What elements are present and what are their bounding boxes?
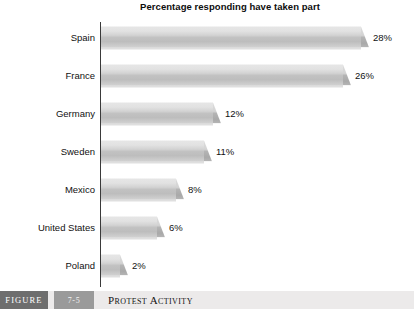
bar-mexico[interactable] bbox=[101, 179, 176, 200]
bar-body bbox=[101, 255, 120, 276]
figure-container: Percentage responding have taken part Sp… bbox=[0, 0, 414, 320]
category-label-united-states: United States bbox=[38, 222, 95, 233]
bar-sweden[interactable] bbox=[101, 141, 204, 162]
bar-end-cap bbox=[204, 141, 212, 162]
bar-shadow bbox=[101, 48, 361, 50]
bar-body bbox=[101, 217, 157, 238]
value-label-united-states: 6% bbox=[169, 222, 183, 233]
bar-row: Mexico 8% bbox=[0, 170, 414, 208]
bar-shadow bbox=[101, 162, 204, 164]
figure-caption-band: FIGURE 7-5 Protest Activity bbox=[0, 291, 414, 309]
bar-row: Germany 12% bbox=[0, 94, 414, 132]
bar-row: Sweden 11% bbox=[0, 132, 414, 170]
bar-row: United States 6% bbox=[0, 208, 414, 246]
value-label-poland: 2% bbox=[132, 260, 146, 271]
bar-shadow bbox=[101, 238, 157, 240]
bar-row: Spain 28% bbox=[0, 18, 414, 56]
category-label-france: France bbox=[65, 70, 95, 81]
value-label-mexico: 8% bbox=[188, 184, 202, 195]
bar-body bbox=[101, 27, 361, 48]
bar-shadow bbox=[101, 276, 120, 278]
chart-title: Percentage responding have taken part bbox=[100, 1, 360, 12]
bar-end-cap bbox=[213, 103, 221, 124]
figure-caption-title: Protest Activity bbox=[108, 291, 193, 309]
bar-france[interactable] bbox=[101, 65, 343, 86]
bar-end-cap bbox=[361, 27, 369, 48]
category-label-spain: Spain bbox=[71, 32, 95, 43]
value-label-france: 26% bbox=[355, 70, 374, 81]
figure-number-badge: 7-5 bbox=[54, 291, 94, 309]
category-label-germany: Germany bbox=[56, 108, 95, 119]
category-label-sweden: Sweden bbox=[61, 146, 95, 157]
bar-body bbox=[101, 103, 213, 124]
bar-end-cap bbox=[176, 179, 184, 200]
bar-united-states[interactable] bbox=[101, 217, 157, 238]
bar-end-cap bbox=[120, 255, 128, 276]
value-label-spain: 28% bbox=[373, 32, 392, 43]
figure-label-badge: FIGURE bbox=[0, 291, 48, 309]
bar-shadow bbox=[101, 124, 213, 126]
bar-poland[interactable] bbox=[101, 255, 120, 276]
value-label-germany: 12% bbox=[225, 108, 244, 119]
category-label-poland: Poland bbox=[65, 260, 95, 271]
category-label-mexico: Mexico bbox=[65, 184, 95, 195]
bar-body bbox=[101, 179, 176, 200]
value-label-sweden: 11% bbox=[216, 146, 234, 157]
plot-area: Spain 28% France 26% Germany bbox=[0, 18, 414, 286]
bar-body bbox=[101, 141, 204, 162]
bar-end-cap bbox=[343, 65, 351, 86]
bar-row: Poland 2% bbox=[0, 246, 414, 284]
bar-body bbox=[101, 65, 343, 86]
bar-row: France 26% bbox=[0, 56, 414, 94]
bar-shadow bbox=[101, 200, 176, 202]
bar-end-cap bbox=[157, 217, 165, 238]
bar-shadow bbox=[101, 86, 343, 88]
bar-germany[interactable] bbox=[101, 103, 213, 124]
bar-spain[interactable] bbox=[101, 27, 361, 48]
